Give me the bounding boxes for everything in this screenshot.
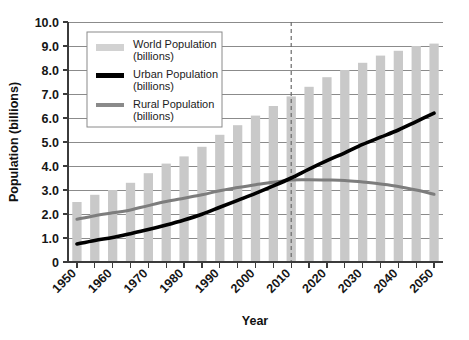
bar-2000 — [251, 116, 260, 262]
bar-1985 — [197, 147, 206, 262]
y-tick-label-6: 6.0 — [42, 112, 59, 126]
x-tick-label-1970: 1970 — [121, 266, 151, 296]
bar-1975 — [162, 164, 171, 262]
y-tick-label-3: 3.0 — [42, 184, 59, 198]
bar-1970 — [144, 173, 153, 262]
legend-urban-label-line2: (billions) — [133, 80, 174, 92]
bar-2020 — [322, 77, 331, 262]
bar-1990 — [215, 135, 224, 262]
y-tick-label-7: 7.0 — [42, 88, 59, 102]
bar-1960 — [108, 190, 117, 262]
y-axis-title: Population (billions) — [7, 82, 21, 202]
bar-2035 — [376, 56, 385, 262]
bar-2030 — [358, 63, 367, 262]
x-tick-label-2020: 2020 — [299, 266, 329, 296]
x-axis-title: Year — [242, 314, 269, 328]
bar-1995 — [233, 125, 242, 262]
x-axis-ticks: 1950196019701980199020002010202020302040… — [49, 262, 436, 296]
legend: World Population (billions) Urban Popula… — [87, 32, 222, 127]
bar-1965 — [126, 183, 135, 262]
population-chart: 01.02.03.04.05.06.07.08.09.010.0 1950196… — [0, 0, 469, 340]
urban-swatch-icon — [96, 73, 124, 78]
y-tick-label-10: 10.0 — [35, 16, 59, 30]
legend-urban-label-line1: Urban Population — [133, 68, 218, 80]
y-tick-label-1: 1.0 — [42, 232, 59, 246]
y-tick-label-4: 4.0 — [42, 160, 59, 174]
y-tick-label-8: 8.0 — [42, 64, 59, 78]
x-tick-label-2030: 2030 — [335, 266, 365, 296]
bar-2050 — [429, 44, 438, 262]
legend-rural-label-line1: Rural Population — [133, 98, 214, 110]
x-tick-label-2010: 2010 — [264, 266, 294, 296]
bar-2015 — [304, 87, 313, 262]
bar-2025 — [340, 70, 349, 262]
bar-2040 — [394, 51, 403, 262]
world-swatch-icon — [96, 44, 124, 51]
y-tick-label-0: 0 — [52, 256, 59, 270]
x-tick-label-1980: 1980 — [157, 266, 187, 296]
y-tick-label-9: 9.0 — [42, 40, 59, 54]
x-tick-label-1950: 1950 — [49, 266, 79, 296]
rural-swatch-icon — [96, 103, 124, 107]
chart-svg: 01.02.03.04.05.06.07.08.09.010.0 1950196… — [0, 0, 469, 340]
legend-rural-label-line2: (billions) — [133, 110, 174, 122]
x-tick-label-2040: 2040 — [371, 266, 401, 296]
x-tick-label-2000: 2000 — [228, 266, 258, 296]
y-tick-label-5: 5.0 — [42, 136, 59, 150]
x-tick-label-1960: 1960 — [85, 266, 115, 296]
y-axis-ticks: 01.02.03.04.05.06.07.08.09.010.0 — [35, 16, 68, 270]
legend-world-label-line1: World Population — [133, 38, 217, 50]
bar-1955 — [90, 195, 99, 262]
x-tick-label-1990: 1990 — [192, 266, 222, 296]
bar-1980 — [179, 156, 188, 262]
bar-1950 — [72, 202, 81, 262]
legend-world-label-line2: (billions) — [133, 50, 174, 62]
bar-2045 — [412, 46, 421, 262]
x-tick-label-2050: 2050 — [407, 266, 437, 296]
y-tick-label-2: 2.0 — [42, 208, 59, 222]
